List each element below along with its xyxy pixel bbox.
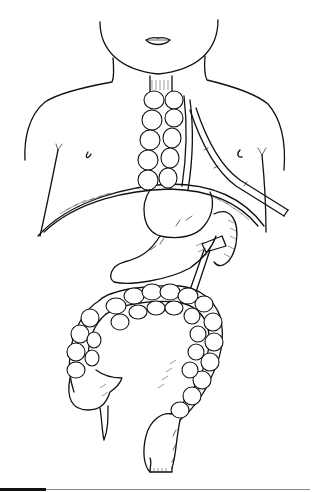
face-outline xyxy=(100,20,218,74)
nipple-right xyxy=(238,150,242,157)
mouth xyxy=(146,38,170,45)
drainage-tube xyxy=(190,108,288,216)
nipple-left xyxy=(86,152,91,158)
interposed-colon-segment xyxy=(138,76,192,190)
anatomy-drawing xyxy=(0,0,318,492)
medical-illustration: Medical line illustration: child torso s… xyxy=(0,0,318,492)
rectum xyxy=(144,414,180,472)
colon-loop xyxy=(100,284,223,420)
cecum-and-appendix xyxy=(69,370,122,440)
footer-accent-bar xyxy=(0,488,46,491)
stomach xyxy=(111,190,237,292)
transverse-haustra xyxy=(106,284,223,418)
footer-rule xyxy=(0,489,310,490)
